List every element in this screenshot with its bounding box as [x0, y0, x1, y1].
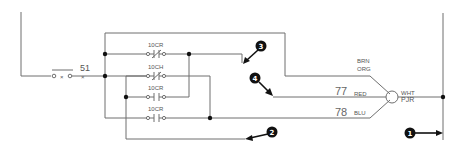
contact-1-nc: 10CR: [146, 42, 165, 58]
contact-2-nc: 10CH: [146, 64, 165, 80]
callout-2: 2: [245, 127, 278, 142]
wiring-diagram: × 51 × 10CR 10CH: [0, 0, 460, 148]
left-rail-wire: [21, 12, 51, 76]
contact-label: 10CR: [148, 42, 164, 48]
contact-3-no: 10CR: [146, 85, 165, 101]
contact-4-no: 10CR: [146, 106, 165, 122]
inner-loop-wire: [126, 76, 245, 139]
callout-3: 3: [243, 41, 267, 65]
switch-51: × 51 ×: [52, 63, 90, 80]
label-pjr: PJR: [401, 96, 414, 103]
contact-label: 10CR: [148, 85, 164, 91]
wire-number-78: 78: [335, 106, 347, 118]
callout-4: 4: [250, 73, 274, 97]
label-brn: BRN: [357, 58, 370, 64]
wire-number-77: 77: [335, 85, 347, 97]
switch-label: 51: [80, 63, 90, 73]
schematic-svg: × 51 × 10CR 10CH: [0, 0, 460, 148]
label-blu: BLU: [354, 110, 366, 116]
label-org: ORG: [357, 66, 371, 72]
callout-1: 1: [405, 128, 444, 139]
svg-text:4: 4: [253, 75, 258, 83]
svg-text:1: 1: [408, 130, 413, 138]
wire-connector: [386, 91, 398, 103]
switch-x-mark: ×: [60, 74, 64, 80]
contact-label: 10CH: [148, 64, 163, 70]
svg-text:2: 2: [270, 129, 275, 137]
svg-text:3: 3: [259, 43, 264, 51]
label-red: RED: [354, 91, 367, 97]
contact-label: 10CR: [148, 106, 164, 112]
switch-sublabel: ×: [81, 74, 85, 80]
